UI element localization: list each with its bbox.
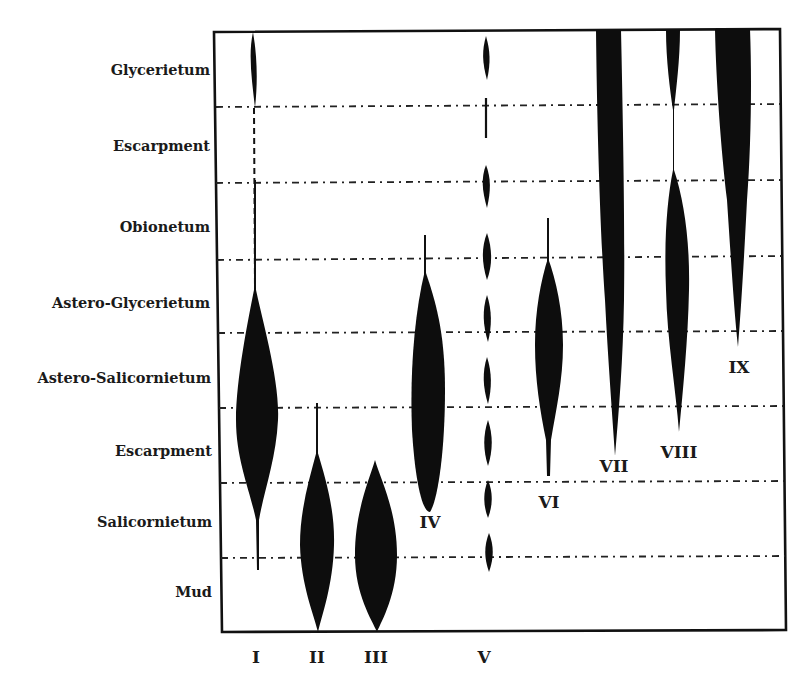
zone-label-obionetum: Obionetum (120, 218, 211, 235)
zone-label-escarpment-upper: Escarpment (113, 137, 210, 154)
spindle-VI (535, 218, 563, 476)
zone-boundaries (216, 104, 785, 558)
species-spindles (236, 29, 751, 632)
species-label-IX: IX (728, 357, 750, 377)
species-label-I: I (252, 647, 260, 667)
zone-label-astero-salicornietum: Astero-Salicornietum (36, 369, 211, 386)
species-label-VII: VII (598, 456, 628, 476)
zone-label-glycerietum: Glycerietum (111, 61, 211, 78)
spindle-IX (715, 29, 751, 347)
zone-labels: Glycerietum Escarpment Obionetum Astero-… (36, 61, 212, 600)
species-label-V: V (476, 647, 491, 667)
species-label-IV: IV (419, 512, 441, 532)
spindle-VIII (665, 30, 689, 432)
spindle-V (483, 36, 490, 208)
spindle-V-lower (483, 233, 493, 572)
species-label-II: II (309, 647, 325, 667)
species-label-VI: VI (537, 492, 559, 512)
zonation-diagram: Glycerietum Escarpment Obionetum Astero-… (0, 0, 809, 682)
zone-label-mud: Mud (175, 583, 212, 600)
zone-label-escarpment-lower: Escarpment (115, 442, 212, 459)
species-label-III: III (364, 647, 388, 667)
spindle-I (236, 32, 278, 570)
spindle-III (355, 460, 397, 632)
zone-label-astero-glycerietum: Astero-Glycerietum (51, 294, 211, 311)
spindle-II (300, 403, 334, 632)
spindle-IV (411, 235, 445, 512)
species-label-VIII: VIII (659, 442, 697, 462)
plot-frame (214, 29, 786, 632)
spindle-VII (596, 30, 624, 456)
zone-label-salicornietum: Salicornietum (97, 513, 213, 530)
